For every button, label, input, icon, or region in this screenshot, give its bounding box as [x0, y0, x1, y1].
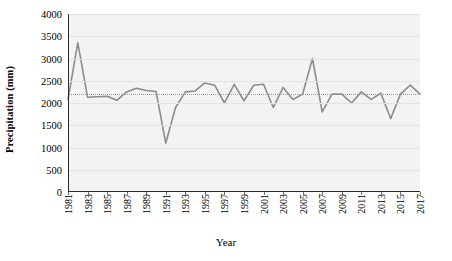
y-axis-tick-labels: 40003500300025002000150010005000 [18, 0, 66, 200]
y-tick-label: 3000 [41, 53, 62, 64]
x-tick-label: 1989 [141, 194, 152, 214]
precipitation-line-chart: Precipitation (mm) 400035003000250020001… [0, 0, 452, 261]
x-tick-label: 2007 [317, 194, 328, 214]
y-tick-label: 1000 [41, 142, 62, 153]
x-tick-label: 2013 [376, 194, 387, 214]
gridline [68, 170, 420, 171]
x-axis-line [68, 191, 420, 192]
x-tick-label: 1993 [180, 194, 191, 214]
x-tick-label: 1999 [239, 194, 250, 214]
x-tick-label: 2005 [298, 194, 309, 214]
y-tick-label: 3500 [41, 31, 62, 42]
y-axis-title: Precipitation (mm) [2, 54, 16, 164]
y-tick-label: 2500 [41, 75, 62, 86]
x-tick-label: 1983 [83, 194, 94, 214]
y-axis-line [68, 14, 69, 192]
y-tick-label: 0 [57, 187, 62, 198]
plot-area [68, 14, 420, 192]
x-tick-label: 2011 [356, 194, 367, 214]
x-tick-label: 1995 [200, 194, 211, 214]
y-tick-label: 4000 [41, 9, 62, 20]
gridline [68, 103, 420, 104]
x-tick-label: 1981 [63, 194, 74, 214]
x-axis-tick-labels: 1981198319851987198919911993199519971999… [68, 194, 420, 236]
gridline [68, 36, 420, 37]
gridline [68, 81, 420, 82]
x-tick-label: 2015 [395, 194, 406, 214]
x-tick-label: 2003 [278, 194, 289, 214]
x-tick-label: 1987 [122, 194, 133, 214]
x-tick-label: 2017 [415, 194, 426, 214]
gridline [68, 59, 420, 60]
gridline [68, 125, 420, 126]
x-axis-title: Year [0, 236, 452, 248]
y-tick-label: 2000 [41, 98, 62, 109]
gridline [68, 14, 420, 15]
x-tick-label: 1985 [102, 194, 113, 214]
x-tick-label: 1991 [161, 194, 172, 214]
x-tick-label: 2001 [259, 194, 270, 214]
y-tick-label: 500 [46, 164, 62, 175]
trendline [68, 94, 420, 95]
y-tick-label: 1500 [41, 120, 62, 131]
x-tick-label: 1997 [219, 194, 230, 214]
x-tick-label: 2009 [337, 194, 348, 214]
gridline [68, 148, 420, 149]
